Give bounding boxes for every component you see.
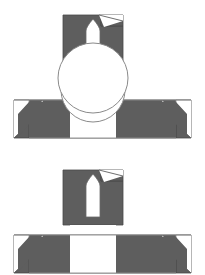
arch-cutout-shape (86, 174, 100, 217)
ribbon-right-main (116, 100, 162, 138)
ribbon-right-main (116, 235, 162, 273)
emblem-diagram-svg (0, 0, 205, 275)
swallowtail-ribbon (14, 235, 191, 273)
arch-cutout (86, 174, 100, 217)
diagram-canvas (0, 0, 205, 275)
figure-bottom (14, 43, 191, 275)
overlay-circle (58, 43, 128, 113)
ribbon-circle-gap (70, 235, 116, 273)
ribbon-left-main (43, 235, 71, 273)
